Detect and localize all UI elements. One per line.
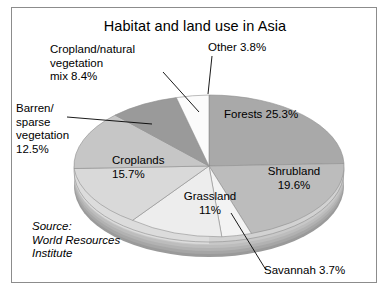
label-barren-sparse-vegetation: Barren/ sparse vegetation 12.5% (16, 102, 106, 156)
pie-slice-forests (209, 95, 344, 166)
chart-frame: Habitat and land use in Asia (11, 7, 377, 283)
leader-line-savannah (231, 213, 266, 270)
label-shrubland: Shrubland 19.6% (248, 165, 340, 192)
label-grassland: Grassland 11% (167, 190, 253, 217)
source-note: Source: World Resources Institute (32, 220, 172, 261)
label-cropland-natural-mix: Cropland/natural vegetation mix 8.4% (50, 43, 170, 84)
label-croplands: Croplands 15.7% (112, 154, 198, 181)
label-forests: Forests 25.3% (224, 108, 344, 122)
leader-line-other (208, 56, 212, 94)
label-other: Other 3.8% (208, 41, 298, 55)
chart-title: Habitat and land use in Asia (12, 18, 378, 34)
label-savannah: Savannah 3.7% (264, 264, 384, 278)
